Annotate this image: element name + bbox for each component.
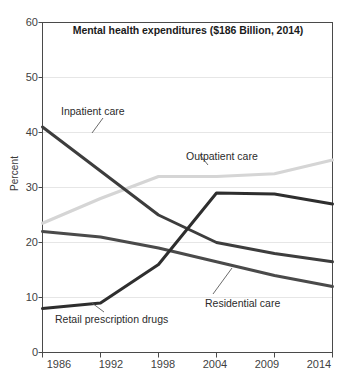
series-line-outpatient-care [43,160,333,223]
series-label-retail-prescription-drugs: Retail prescription drugs [55,313,168,325]
chart-title: Mental health expenditures ($186 Billion… [44,24,332,36]
axis-tickmarks [39,23,333,358]
series-label-inpatient-care: Inpatient care [61,105,125,117]
series-label-outpatient-care: Outpatient care [186,150,258,162]
plot-area [0,0,343,385]
series-line-retail-prescription-drugs [43,193,333,309]
chart-container: Percent 60 50 40 30 20 10 0 1986 1992 19… [0,0,343,385]
leader-line [92,118,103,133]
leader-line [213,268,232,294]
series-label-residential-care: Residential care [205,297,280,309]
series-line-inpatient-care [43,127,333,262]
series-line-residential-care [43,232,333,287]
